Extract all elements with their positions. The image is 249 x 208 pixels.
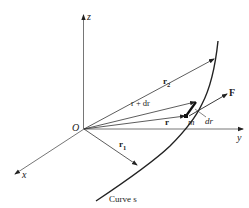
coordinate-axes — [15, 15, 243, 174]
r-vector — [84, 116, 185, 129]
r1-label: r1 — [119, 139, 126, 151]
x-axis — [15, 129, 84, 174]
dr-label: dr — [205, 116, 214, 126]
r-plus-dr-label: r + dr — [131, 98, 150, 108]
origin-label: O — [72, 122, 79, 133]
force-label: F — [229, 87, 235, 98]
z-axis-label: z — [86, 11, 91, 22]
position-vectors — [84, 59, 214, 165]
x-axis-label: x — [21, 169, 27, 180]
r1-vector — [84, 129, 137, 165]
curve-s — [96, 41, 218, 201]
r2-label: r2 — [163, 76, 170, 88]
r-label: r — [165, 117, 169, 127]
curve-label: Curve s — [109, 194, 137, 204]
mass-label: m — [188, 117, 195, 127]
r2-vector — [84, 59, 214, 129]
y-axis-label: y — [236, 132, 242, 143]
work-along-curve-diagram: z y x O r2 r + dr r r1 F dr m Curve s — [0, 0, 249, 208]
